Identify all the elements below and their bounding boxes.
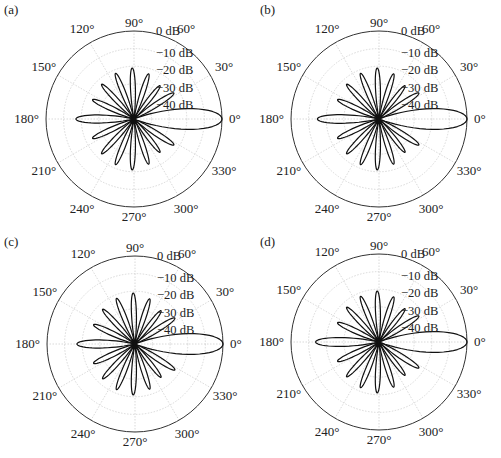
angle-label-330: 330° xyxy=(457,386,482,401)
db-label: −10 dB xyxy=(157,271,194,285)
panel-b: (b) 0°30°60°90°120°150°180°210°240°270°3… xyxy=(259,2,485,224)
origin-dot xyxy=(132,117,136,121)
angle-label-150: 150° xyxy=(33,284,58,299)
angle-label-300: 300° xyxy=(174,201,199,216)
db-label: 0 dB xyxy=(401,247,425,261)
angle-label-120: 120° xyxy=(71,246,96,261)
panel-label: (a) xyxy=(4,2,18,17)
angle-label-120: 120° xyxy=(315,21,340,36)
angle-label-210: 210° xyxy=(33,388,58,403)
panel-c: (c) 0°30°60°90°120°150°180°210°240°270°3… xyxy=(4,234,242,449)
side-lobe xyxy=(375,342,380,393)
side-lobe xyxy=(375,291,380,342)
angle-label-90: 90° xyxy=(126,240,144,255)
db-labels: 0 dB−10 dB−20 dB−30 dB−40 dB xyxy=(156,24,193,112)
angle-label-210: 210° xyxy=(277,386,302,401)
db-labels: 0 dB−10 dB−20 dB−30 dB−40 dB xyxy=(157,249,194,337)
angle-labels: 0°30°60°90°120°150°180°210°240°270°300°3… xyxy=(259,15,485,224)
angle-label-90: 90° xyxy=(370,15,388,30)
angle-label-210: 210° xyxy=(277,163,302,178)
db-label: −30 dB xyxy=(157,306,194,320)
angle-label-180: 180° xyxy=(15,336,40,351)
angle-labels: 0°30°60°90°120°150°180°210°240°270°300°3… xyxy=(14,15,240,224)
db-label: −40 dB xyxy=(157,323,194,337)
side-lobe xyxy=(130,68,135,119)
angle-label-270: 270° xyxy=(367,209,392,224)
grid-spoke xyxy=(135,344,211,388)
angle-label-330: 330° xyxy=(212,163,237,178)
angle-label-30: 30° xyxy=(460,59,478,74)
panel-label: (c) xyxy=(4,234,18,249)
angle-label-270: 270° xyxy=(122,209,147,224)
panel-d: (d) 0°30°60°90°120°150°180°210°240°270°3… xyxy=(259,234,485,447)
angle-labels: 0°30°60°90°120°150°180°210°240°270°300°3… xyxy=(259,238,485,447)
angle-label-0: 0° xyxy=(474,334,486,349)
db-label: −10 dB xyxy=(401,269,438,283)
side-lobe xyxy=(375,68,380,119)
db-labels: 0 dB−10 dB−20 dB−30 dB−40 dB xyxy=(401,24,438,112)
db-label: −10 dB xyxy=(401,46,438,60)
angle-label-240: 240° xyxy=(71,426,96,441)
angle-label-330: 330° xyxy=(457,163,482,178)
angle-label-300: 300° xyxy=(419,201,444,216)
side-lobe xyxy=(130,119,135,170)
angle-label-150: 150° xyxy=(277,59,302,74)
angle-labels: 0°30°60°90°120°150°180°210°240°270°300°3… xyxy=(15,240,241,449)
panel-label: (d) xyxy=(260,234,275,249)
angle-label-180: 180° xyxy=(259,111,284,126)
db-label: −20 dB xyxy=(156,63,193,77)
side-lobe xyxy=(131,344,136,395)
angle-label-30: 30° xyxy=(215,59,233,74)
panel-a: (a) 0°30°60°90°120°150°180°210°240°270°3… xyxy=(4,2,241,224)
grid-spoke xyxy=(379,119,455,163)
angle-label-270: 270° xyxy=(367,432,392,447)
db-label: −40 dB xyxy=(401,321,438,335)
angle-label-180: 180° xyxy=(14,111,39,126)
angle-label-180: 180° xyxy=(259,334,284,349)
angle-label-0: 0° xyxy=(230,336,242,351)
angle-label-210: 210° xyxy=(32,163,57,178)
angle-label-270: 270° xyxy=(123,434,148,449)
db-label: 0 dB xyxy=(157,249,181,263)
angle-label-30: 30° xyxy=(216,284,234,299)
db-label: 0 dB xyxy=(156,24,180,38)
angle-label-240: 240° xyxy=(315,201,340,216)
db-label: −40 dB xyxy=(156,98,193,112)
angle-label-0: 0° xyxy=(474,111,486,126)
angle-label-90: 90° xyxy=(370,238,388,253)
angle-label-150: 150° xyxy=(32,59,57,74)
origin-dot xyxy=(377,117,381,121)
side-lobe xyxy=(375,119,380,170)
db-label: −30 dB xyxy=(401,304,438,318)
angle-label-30: 30° xyxy=(460,282,478,297)
angle-label-150: 150° xyxy=(277,282,302,297)
origin-dot xyxy=(377,340,381,344)
db-label: −20 dB xyxy=(401,63,438,77)
db-label: −10 dB xyxy=(156,46,193,60)
figure-polar-patterns: (a) 0°30°60°90°120°150°180°210°240°270°3… xyxy=(0,0,501,458)
angle-label-240: 240° xyxy=(315,424,340,439)
angle-label-240: 240° xyxy=(70,201,95,216)
db-label: −30 dB xyxy=(156,81,193,95)
angle-label-330: 330° xyxy=(213,388,238,403)
db-label: 0 dB xyxy=(401,24,425,38)
db-labels: 0 dB−10 dB−20 dB−30 dB−40 dB xyxy=(401,247,438,335)
db-label: −40 dB xyxy=(401,98,438,112)
grid-spoke xyxy=(134,119,210,163)
db-label: −30 dB xyxy=(401,81,438,95)
angle-label-120: 120° xyxy=(70,21,95,36)
angle-label-300: 300° xyxy=(419,424,444,439)
angle-label-120: 120° xyxy=(315,244,340,259)
side-lobe xyxy=(131,293,136,344)
angle-label-0: 0° xyxy=(229,111,241,126)
db-label: −20 dB xyxy=(401,286,438,300)
panel-label: (b) xyxy=(260,2,275,17)
origin-dot xyxy=(133,342,137,346)
angle-label-90: 90° xyxy=(125,15,143,30)
db-label: −20 dB xyxy=(157,288,194,302)
grid-spoke xyxy=(379,342,455,386)
angle-label-300: 300° xyxy=(175,426,200,441)
